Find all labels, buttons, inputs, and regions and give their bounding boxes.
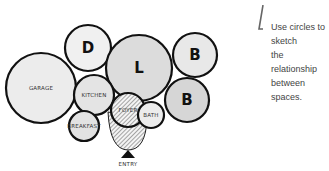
space-label-bath: BATH <box>143 112 158 118</box>
space-garage: GARAGE <box>6 53 76 123</box>
caption-line-1: Use circles to sketch <box>271 20 329 48</box>
entry-arrow-icon <box>121 150 135 158</box>
space-label-living: L <box>134 59 144 77</box>
space-dining: D <box>65 25 111 71</box>
space-living: L <box>106 35 172 101</box>
space-label-bed2: B <box>181 91 192 109</box>
space-label-breakfast: BREAKFAST <box>67 123 101 129</box>
space-breakfast: BREAKFAST <box>67 111 101 141</box>
space-kitchen: KITCHEN <box>74 75 114 115</box>
space-label-garage: GARAGE <box>29 85 54 91</box>
space-bed2: B <box>165 78 209 122</box>
caption: Use circles to sketch the relationship b… <box>271 20 329 104</box>
entry-label: ENTRY <box>119 161 138 167</box>
space-label-kitchen: KITCHEN <box>81 92 106 98</box>
space-label-bed1: B <box>189 46 200 64</box>
caption-line-3: between spaces. <box>271 76 329 104</box>
caption-line-2: the relationship <box>271 48 329 76</box>
space-label-dining: D <box>82 39 94 57</box>
accent-slash-icon <box>258 5 264 31</box>
space-bed1: B <box>173 33 217 77</box>
space-bath: BATH <box>138 102 164 128</box>
space-label-foyer: FOYER <box>119 107 138 113</box>
